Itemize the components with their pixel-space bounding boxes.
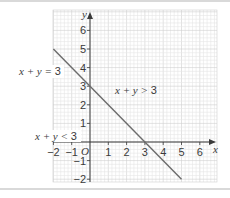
y-tick-label: 1 [80,117,86,129]
x-tick-label: 3 [142,146,148,158]
region-below-label: x + y < 3 [34,130,77,142]
y-tick-label: 6 [80,24,86,36]
x-tick-label: 6 [197,146,203,158]
x-tick-label: 5 [178,146,184,158]
y-tick-label: 4 [80,62,86,74]
inequality-graph: −2−1123456−2−1123456 x + y = 3 x + y > 3… [0,0,230,198]
x-tick-label: −2 [47,146,60,158]
line-equation-label: x + y = 3 [18,65,61,77]
x-tick-label: 1 [105,146,111,158]
region-above-label: x + y > 3 [114,84,157,96]
x-axis-label: x [212,143,218,155]
y-tick-label: 5 [80,43,86,55]
y-tick-label: −2 [73,173,86,185]
origin-label: O [81,145,89,157]
x-tick-label: 2 [124,146,130,158]
y-axis-label: y [81,8,87,20]
x-tick-label: 4 [160,146,166,158]
y-tick-label: 2 [80,99,86,111]
